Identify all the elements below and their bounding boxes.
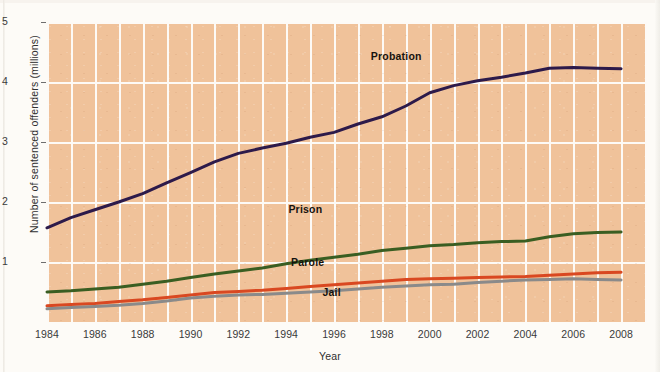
x-tick-label: 1984 — [25, 328, 69, 340]
x-tick-label: 1986 — [73, 328, 117, 340]
x-axis-title: Year — [0, 350, 660, 362]
x-tick-label: 2006 — [551, 328, 595, 340]
x-tick-label: 1990 — [169, 328, 213, 340]
y-tick-label: 2 — [0, 195, 8, 207]
line-chart: ProbationPrisonParoleJail 12345 19841986… — [0, 0, 660, 372]
series-label-prison: Prison — [288, 203, 322, 215]
x-tick-label: 1998 — [360, 328, 404, 340]
x-tick-label: 2002 — [456, 328, 500, 340]
vertical-gridline — [645, 22, 647, 322]
series-label-probation: Probation — [371, 50, 422, 62]
y-tick-label: 1 — [0, 255, 8, 267]
series-label-parole: Parole — [291, 256, 324, 268]
y-tick-label: 4 — [0, 75, 8, 87]
y-tick-label: 3 — [0, 135, 8, 147]
x-tick-label: 2000 — [408, 328, 452, 340]
x-tick-label: 1988 — [121, 328, 165, 340]
x-tick-label: 2008 — [599, 328, 643, 340]
x-tick-label: 1992 — [216, 328, 260, 340]
plot-area: ProbationPrisonParoleJail — [47, 22, 645, 322]
y-tick-mark — [41, 262, 46, 263]
y-axis-title: Number of sentenced offenders (millions) — [28, 14, 40, 254]
y-tick-label: 5 — [0, 15, 8, 27]
y-tick-mark — [41, 82, 46, 83]
y-tick-mark — [41, 22, 46, 23]
x-tick-label: 2004 — [503, 328, 547, 340]
series-line-prison — [47, 232, 621, 292]
y-tick-mark — [41, 142, 46, 143]
series-line-probation — [47, 68, 621, 228]
x-tick-label: 1994 — [264, 328, 308, 340]
series-label-jail: Jail — [322, 286, 340, 298]
y-tick-mark — [41, 202, 46, 203]
series-lines — [47, 22, 645, 322]
x-tick-label: 1996 — [312, 328, 356, 340]
